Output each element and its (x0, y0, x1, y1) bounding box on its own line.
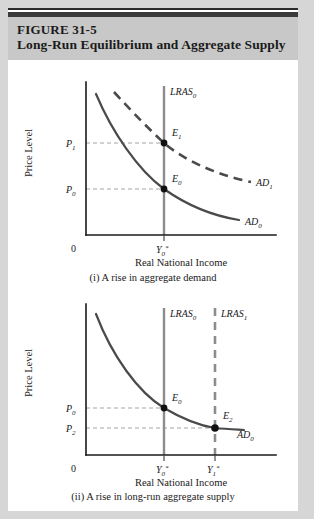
chart-svg-ii: Price Level P0 P2 0 Y0* Y1* Real Nationa… (8, 292, 298, 488)
x-tick-label-y0-i: Y0* (156, 244, 169, 258)
curve-label-lras0-ii: LRAS0 (169, 308, 197, 322)
curve-ad0-ii (96, 314, 244, 430)
chart-panel-ii: Price Level P0 P2 0 Y0* Y1* Real Nationa… (8, 292, 298, 511)
curve-label-ad1: AD1 (255, 177, 273, 191)
figure-card: FIGURE 31-5 Long-Run Equilibrium and Agg… (8, 8, 298, 511)
point-label-e0-ii: E0 (171, 392, 182, 406)
y-tick-label-p2: P2 (65, 423, 76, 437)
origin-label-i: 0 (71, 243, 76, 254)
x-axis-label-ii: Real National Income (135, 477, 227, 488)
y-tick-label-p0-i: P0 (65, 184, 76, 198)
figure-title: Long-Run Equilibrium and Aggregate Suppl… (17, 37, 289, 53)
point-label-e0-i: E0 (171, 173, 182, 187)
caption-panel-ii: (ii) A rise in long-run aggregate supply (8, 491, 298, 502)
x-axis-label-i: Real National Income (135, 257, 227, 268)
chart-svg-i: Price Level P1 P0 0 Y0* Real National In… (8, 70, 298, 268)
figure-number: FIGURE 31-5 (17, 22, 289, 37)
chart-panel-i: Price Level P1 P0 0 Y0* Real National In… (8, 70, 298, 292)
y-axis-label-ii: Price Level (23, 349, 34, 397)
point-label-e1: E1 (171, 127, 182, 141)
point-e1 (161, 140, 168, 147)
curve-ad0-i (96, 94, 239, 220)
y-tick-label-p1: P1 (65, 138, 76, 152)
point-e0-ii (161, 405, 168, 412)
curve-label-ad0-ii: AD0 (236, 429, 254, 443)
point-e2 (211, 424, 219, 432)
y-tick-label-p0-ii: P0 (65, 403, 76, 417)
origin-label-ii: 0 (71, 463, 76, 474)
curve-label-lras0-i: LRAS0 (169, 86, 197, 100)
x-tick-label-y1: Y1* (207, 464, 220, 478)
figure-title-bar: FIGURE 31-5 Long-Run Equilibrium and Agg… (8, 17, 298, 60)
figure-header: FIGURE 31-5 Long-Run Equilibrium and Agg… (8, 8, 298, 60)
point-label-e2: E2 (222, 410, 233, 424)
curve-label-lras1: LRAS1 (220, 308, 247, 322)
y-axis-label-i: Price Level (23, 129, 34, 177)
caption-panel-i: (i) A rise in aggregate demand (8, 272, 298, 283)
curve-label-ad0-i: AD0 (244, 216, 262, 230)
curve-ad1 (114, 92, 251, 182)
x-tick-label-y0-ii: Y0* (156, 464, 169, 478)
point-e0-i (161, 186, 168, 193)
